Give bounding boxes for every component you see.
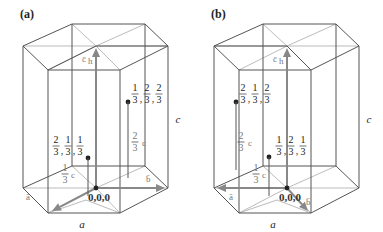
panel-label: (b) (211, 7, 226, 21)
atom-lower-coords-frac-2: 13 (300, 134, 307, 157)
height-upper-label: 23 (238, 130, 245, 153)
base-subdivision (239, 200, 277, 213)
atom-upper-coords-frac-2-numerator: 2 (157, 82, 162, 93)
vector-a-label: ā (26, 192, 30, 202)
vector-a-arrow-head (217, 184, 226, 192)
atom-lower-coords-frac-2-denominator: 3 (301, 146, 306, 157)
atom-lower-coords-frac-0-numerator: 1 (277, 134, 282, 145)
atom-upper-coords-frac-0: 13 (132, 82, 139, 105)
top-edge-r-fr (120, 46, 168, 70)
atom-lower-coords: 13,23,13 (276, 134, 307, 157)
atom-upper-coords-frac-0: 23 (240, 82, 247, 105)
atom-upper-coords-comma-0: , (248, 93, 251, 104)
atom-upper-coords-frac-1-denominator: 3 (253, 94, 258, 105)
vector-a-label: ā (229, 192, 233, 202)
vector-b-label: b̄ (306, 197, 311, 207)
base-diagonal-bl (72, 166, 96, 188)
atom-upper-coords-frac-2-denominator: 3 (265, 94, 270, 105)
height-lower-label-denominator: 3 (254, 174, 259, 185)
top-edge-fl-l (23, 46, 48, 70)
vector-c-letter: c̄ (273, 54, 277, 64)
height-upper-label: 23 (132, 130, 139, 153)
origin-point (285, 186, 290, 191)
cell-edge-top (287, 46, 311, 70)
height-upper-c: c (142, 138, 146, 148)
atom-lower-coords-frac-2: 13 (77, 134, 84, 157)
atom-upper-coords-frac-1: 23 (144, 82, 151, 105)
vector-c-arrow (92, 48, 100, 188)
vector-c-label: c̄h (82, 54, 93, 66)
top-diagonal-br (287, 24, 336, 46)
atom-upper-coords-frac-2-numerator: 2 (265, 82, 270, 93)
vector-b-label: b̄ (146, 174, 151, 184)
height-lower-c: c (71, 170, 75, 180)
atom-lower-coords-frac-0-denominator: 3 (54, 146, 59, 157)
lattice-a-label: a (79, 218, 85, 230)
base-diagonal-bl (263, 166, 287, 188)
panel-label: (a) (20, 7, 34, 21)
top-edge-br-r (145, 24, 168, 46)
height-upper-label-denominator: 3 (239, 142, 244, 153)
base-edge-r-fr (311, 188, 359, 213)
vector-c-subscript: h (88, 56, 93, 66)
atom-upper-coords-frac-0-numerator: 2 (241, 82, 246, 93)
atom-upper-coords-comma-1: , (260, 93, 263, 104)
atom-lower-coords-comma-1: , (73, 145, 76, 156)
base-edge-r-fr (120, 188, 168, 213)
atom-lower-coords-frac-1-denominator: 3 (289, 146, 294, 157)
atom-upper-coords-frac-0-numerator: 1 (133, 82, 138, 93)
atom-upper-coords-frac-1-numerator: 2 (145, 82, 150, 93)
top-diagonal-bl (72, 24, 96, 46)
lattice-c-label: c (367, 113, 372, 125)
vector-c-letter: c̄ (82, 54, 86, 64)
vector-c-subscript: h (279, 56, 284, 66)
origin-label: 0,0,0 (88, 191, 111, 203)
atom-lower-coords-frac-1-denominator: 3 (66, 146, 71, 157)
atom-upper-coords: 23,13,23 (240, 82, 271, 105)
height-lower-label-numerator: 1 (254, 162, 259, 173)
atom-lower-coords-frac-0: 13 (276, 134, 283, 157)
atom-lower-coords-frac-1: 13 (65, 134, 72, 157)
top-edge-r-fr (311, 46, 359, 70)
atom-lower-coords-frac-0: 23 (53, 134, 60, 157)
atom-lower-coords: 23,13,13 (53, 134, 84, 157)
vector-c-label: c̄h (273, 54, 284, 66)
top-edge-l-bl (23, 24, 72, 46)
top-edge-br-r (336, 24, 359, 46)
panel-b: c̄hāb̄0,0,0ac23,13,2313,23,1323c13c(b) (211, 7, 372, 230)
base-edge-br-r (336, 166, 359, 188)
top-diagonal-fr (96, 46, 120, 70)
atom-upper-coords-frac-2: 23 (264, 82, 271, 105)
lattice-c-label: c (176, 113, 181, 125)
atom-upper-coords-frac-2-denominator: 3 (157, 94, 162, 105)
atom-lower-coords-frac-1-numerator: 2 (289, 134, 294, 145)
vector-a-arrow (217, 184, 287, 192)
hexagonal-cell-figure: c̄hāb̄0,0,0ac13,23,2323,13,1323c13c(a)c… (0, 0, 383, 232)
atom-upper-coords-frac-0-denominator: 3 (241, 94, 246, 105)
origin-point (94, 186, 99, 191)
height-upper-c: c (248, 138, 252, 148)
vector-c-arrow (283, 48, 291, 188)
height-lower-c: c (262, 170, 266, 180)
height-lower-label: 13 (253, 162, 260, 185)
atom-upper-coords-frac-0-denominator: 3 (133, 94, 138, 105)
height-upper-label-numerator: 2 (133, 130, 138, 141)
top-edge-fl-l (214, 46, 239, 70)
lattice-a-label: a (270, 218, 276, 230)
atom-lower-coords-frac-1-numerator: 1 (66, 134, 71, 145)
top-diagonal-br (96, 24, 145, 46)
atom-lower-coords-frac-0-numerator: 2 (54, 134, 59, 145)
panel-a: c̄hāb̄0,0,0ac13,23,2323,13,1323c13c(a) (20, 7, 181, 230)
atom-upper-coords: 13,23,23 (132, 82, 163, 105)
atom-upper-coords-frac-1-denominator: 3 (145, 94, 150, 105)
atom-lower-coords-frac-2-numerator: 1 (301, 134, 306, 145)
height-upper-label-numerator: 2 (239, 130, 244, 141)
height-lower-label-numerator: 1 (63, 162, 68, 173)
atom-upper-coords-comma-1: , (152, 93, 155, 104)
atom-lower-coords-comma-1: , (296, 145, 299, 156)
atom-upper-coords-frac-1-numerator: 1 (253, 82, 258, 93)
atom-upper-coords-comma-0: , (140, 93, 143, 104)
base-edge-fl-l (214, 188, 239, 213)
height-lower-label: 13 (62, 162, 69, 185)
atom-lower-coords-frac-2-numerator: 1 (78, 134, 83, 145)
